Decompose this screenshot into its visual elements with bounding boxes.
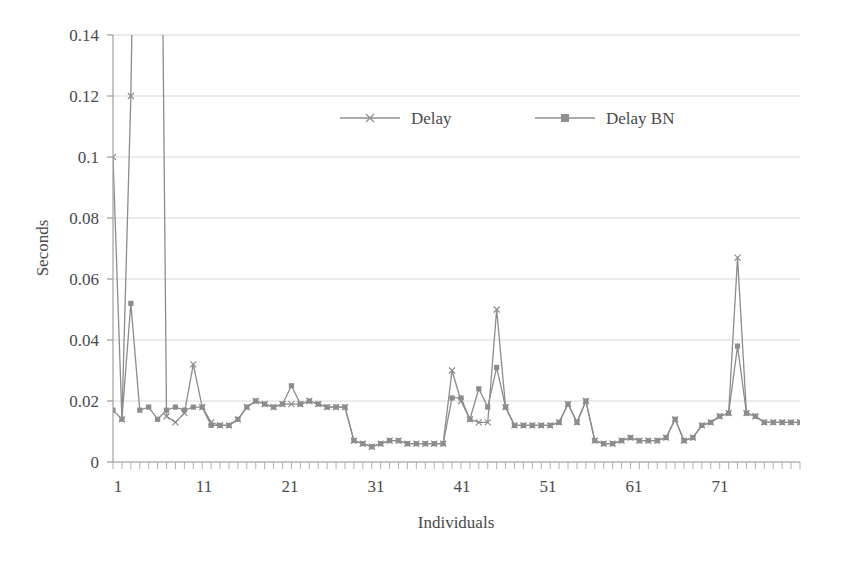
x-tick-label-31: 31 <box>368 477 385 496</box>
data-point-marker <box>485 405 490 410</box>
x-tick-label-71: 71 <box>712 477 729 496</box>
legend-label-delay-bn: Delay BN <box>606 109 674 128</box>
data-point-marker <box>244 405 249 410</box>
data-point-marker <box>628 435 633 440</box>
chart-figure: 0 0.02 0.04 0.06 0.08 0.1 0.12 0.14 1 11… <box>0 0 842 565</box>
data-point-marker <box>378 441 383 446</box>
data-point-marker <box>298 401 303 406</box>
data-point-marker <box>646 438 651 443</box>
data-point-marker <box>512 423 517 428</box>
data-point-marker <box>173 405 178 410</box>
y-tick-label-5: 0.1 <box>78 148 99 167</box>
x-tick-label-1: 1 <box>114 477 123 496</box>
data-point-marker <box>583 398 588 403</box>
data-point-marker <box>226 423 231 428</box>
y-tick-label-4: 0.08 <box>69 209 99 228</box>
data-point-marker <box>780 420 785 425</box>
x-tick-label-11: 11 <box>196 477 212 496</box>
data-point-marker <box>601 441 606 446</box>
y-tick-label-3: 0.06 <box>69 270 99 289</box>
data-point-marker <box>342 405 347 410</box>
data-point-marker <box>672 417 677 422</box>
data-point-marker <box>405 441 410 446</box>
data-point-marker <box>449 395 454 400</box>
data-point-marker <box>387 438 392 443</box>
data-point-marker <box>539 423 544 428</box>
data-point-marker <box>325 405 330 410</box>
data-point-marker <box>619 438 624 443</box>
data-point-marker <box>708 420 713 425</box>
data-point-marker <box>182 408 187 413</box>
y-tick-label-0: 0 <box>91 453 100 472</box>
data-point-marker <box>548 423 553 428</box>
data-point-marker <box>574 420 579 425</box>
data-point-marker <box>717 414 722 419</box>
data-point-marker <box>289 383 294 388</box>
data-point-marker <box>610 441 615 446</box>
data-point-marker <box>262 401 267 406</box>
data-point-marker <box>762 420 767 425</box>
data-point-marker <box>494 365 499 370</box>
data-point-marker <box>592 438 597 443</box>
data-point-marker <box>271 405 276 410</box>
data-point-marker <box>753 414 758 419</box>
data-point-marker <box>557 420 562 425</box>
x-tick-label-21: 21 <box>282 477 299 496</box>
data-point-marker <box>690 435 695 440</box>
data-point-marker <box>521 423 526 428</box>
data-point-marker <box>735 344 740 349</box>
data-point-marker <box>637 438 642 443</box>
x-axis-title: Individuals <box>418 513 495 532</box>
data-point-marker <box>681 438 686 443</box>
data-point-marker <box>119 417 124 422</box>
data-point-marker <box>128 301 133 306</box>
data-point-marker <box>191 405 196 410</box>
data-point-marker <box>155 417 160 422</box>
data-point-marker <box>307 398 312 403</box>
data-point-marker <box>217 423 222 428</box>
y-tick-label-2: 0.04 <box>69 331 99 350</box>
data-point-marker <box>423 441 428 446</box>
data-point-marker <box>253 398 258 403</box>
data-point-marker <box>476 386 481 391</box>
data-point-marker <box>209 423 214 428</box>
data-point-marker <box>137 408 142 413</box>
data-point-marker <box>744 411 749 416</box>
data-point-marker <box>235 417 240 422</box>
data-point-marker <box>369 444 374 449</box>
data-point-marker <box>699 423 704 428</box>
data-point-marker <box>414 441 419 446</box>
data-point-marker <box>396 438 401 443</box>
data-point-marker <box>441 441 446 446</box>
y-tick-label-1: 0.02 <box>69 392 99 411</box>
data-point-marker <box>360 441 365 446</box>
data-point-marker <box>280 401 285 406</box>
data-point-marker <box>771 420 776 425</box>
y-tick-label-6: 0.12 <box>69 87 99 106</box>
delay-line-chart: 0 0.02 0.04 0.06 0.08 0.1 0.12 0.14 1 11… <box>0 0 842 565</box>
y-axis-title: Seconds <box>33 220 52 277</box>
data-point-marker <box>565 401 570 406</box>
data-point-marker <box>467 417 472 422</box>
square-marker-icon <box>561 114 569 122</box>
data-point-marker <box>432 441 437 446</box>
data-point-marker <box>200 405 205 410</box>
x-tick-label-51: 51 <box>540 477 557 496</box>
y-tick-label-7: 0.14 <box>69 26 99 45</box>
data-point-marker <box>788 420 793 425</box>
data-point-marker <box>530 423 535 428</box>
x-tick-label-61: 61 <box>626 477 643 496</box>
data-point-marker <box>351 438 356 443</box>
data-point-marker <box>503 405 508 410</box>
data-point-marker <box>146 405 151 410</box>
data-point-marker <box>333 405 338 410</box>
legend-label-delay: Delay <box>411 109 452 128</box>
data-point-marker <box>726 411 731 416</box>
x-tick-label-41: 41 <box>454 477 471 496</box>
data-point-marker <box>655 438 660 443</box>
data-point-marker <box>664 435 669 440</box>
data-point-marker <box>164 408 169 413</box>
data-point-marker <box>458 395 463 400</box>
data-point-marker <box>316 401 321 406</box>
